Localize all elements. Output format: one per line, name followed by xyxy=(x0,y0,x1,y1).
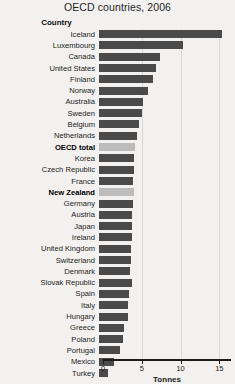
bar-row: Hungary xyxy=(0,311,235,322)
bar-row: Denmark xyxy=(0,266,235,277)
bar-row: Poland xyxy=(0,334,235,345)
bar-category-label: Czech Republic xyxy=(0,166,99,174)
bar-track xyxy=(99,97,235,108)
bar-category-label: Canada xyxy=(0,53,99,61)
bar-track xyxy=(99,165,235,176)
bar-category-label: France xyxy=(0,178,99,186)
bar-row: Norway xyxy=(0,85,235,96)
x-tick-label: 0 xyxy=(101,364,105,373)
bar-track xyxy=(99,153,235,164)
bar-row: Korea xyxy=(0,153,235,164)
bar xyxy=(99,64,156,72)
bar-track xyxy=(99,119,235,130)
bar xyxy=(99,120,139,128)
bar-category-label: OECD total xyxy=(0,144,99,152)
x-tick-label: 15 xyxy=(215,364,223,373)
bar-category-label: Iceland xyxy=(0,31,99,39)
chart-title: OECD countries, 2006 xyxy=(0,1,235,13)
bar-track xyxy=(99,176,235,187)
bar-category-label: Portugal xyxy=(0,347,99,355)
bar-track xyxy=(99,210,235,221)
bar-category-label: Italy xyxy=(0,302,99,310)
bar-category-label: Slovak Republic xyxy=(0,279,99,287)
bar xyxy=(99,313,128,321)
bar xyxy=(99,166,134,174)
bar-category-label: Japan xyxy=(0,223,99,231)
bar-category-label: Norway xyxy=(0,87,99,95)
bar xyxy=(99,233,132,241)
bar-row: Luxembourg xyxy=(0,40,235,51)
bar-row: Belgium xyxy=(0,119,235,130)
bar-track xyxy=(99,187,235,198)
bar xyxy=(99,245,131,253)
bar xyxy=(99,132,137,140)
bar xyxy=(99,222,132,230)
bar-category-label: Austria xyxy=(0,211,99,219)
bar-row: United Kingdom xyxy=(0,244,235,255)
bar xyxy=(99,200,133,208)
x-tick-label: 5 xyxy=(140,364,144,373)
bar-row: Czech Republic xyxy=(0,165,235,176)
bar xyxy=(99,87,148,95)
bar-category-label: Ireland xyxy=(0,234,99,242)
bar-track xyxy=(99,52,235,63)
bar-category-label: Luxembourg xyxy=(0,42,99,50)
bar-row: OECD total xyxy=(0,142,235,153)
bar-category-label: Sweden xyxy=(0,110,99,118)
bar-row: United States xyxy=(0,63,235,74)
bar xyxy=(99,143,135,151)
bar-category-label: Hungary xyxy=(0,313,99,321)
bar-track xyxy=(99,131,235,142)
bar-track xyxy=(99,85,235,96)
bar-track xyxy=(99,345,235,356)
bar-category-label: Greece xyxy=(0,324,99,332)
bar xyxy=(99,53,160,61)
bar-category-label: Netherlands xyxy=(0,132,99,140)
bar-track xyxy=(99,63,235,74)
bar-category-label: United States xyxy=(0,65,99,73)
bar-track xyxy=(99,300,235,311)
bar xyxy=(99,177,133,185)
bar-track xyxy=(99,221,235,232)
bar-category-label: Switzerland xyxy=(0,257,99,265)
bar-track xyxy=(99,142,235,153)
chart-container: OECD countries, 2006 Country IcelandLuxe… xyxy=(0,0,235,384)
bar-track xyxy=(99,266,235,277)
bar-row: Italy xyxy=(0,300,235,311)
bar-track xyxy=(99,244,235,255)
bar xyxy=(99,109,142,117)
bar-rows: IcelandLuxembourgCanadaUnited StatesFinl… xyxy=(0,29,235,379)
bar-track xyxy=(99,198,235,209)
bar xyxy=(99,154,134,162)
bar-track xyxy=(99,29,235,40)
bar-row: New Zealand xyxy=(0,187,235,198)
bar-track xyxy=(99,323,235,334)
bar-track xyxy=(99,278,235,289)
bar-row: Spain xyxy=(0,289,235,300)
bar-track xyxy=(99,74,235,85)
bar-row: Greece xyxy=(0,323,235,334)
bar xyxy=(99,301,128,309)
bar xyxy=(99,98,143,106)
bar-track xyxy=(99,255,235,266)
plot-area: IcelandLuxembourgCanadaUnited StatesFinl… xyxy=(0,29,235,359)
bar-category-label: New Zealand xyxy=(0,189,99,197)
bar-row: Japan xyxy=(0,221,235,232)
x-tick-label: 10 xyxy=(176,364,184,373)
bar-track xyxy=(99,108,235,119)
bar-row: Portugal xyxy=(0,345,235,356)
bar xyxy=(99,188,134,196)
bar-category-label: United Kingdom xyxy=(0,245,99,253)
bar-category-label: Korea xyxy=(0,155,99,163)
bar xyxy=(99,211,132,219)
bar xyxy=(99,75,153,83)
bar-category-label: Germany xyxy=(0,200,99,208)
bar-row: Sweden xyxy=(0,108,235,119)
x-axis-ticks: 051015 xyxy=(0,361,235,373)
bar xyxy=(99,290,129,298)
bar-row: Slovak Republic xyxy=(0,278,235,289)
bar xyxy=(99,267,130,275)
bar-row: Finland xyxy=(0,74,235,85)
bar-track xyxy=(99,334,235,345)
bar-row: France xyxy=(0,176,235,187)
